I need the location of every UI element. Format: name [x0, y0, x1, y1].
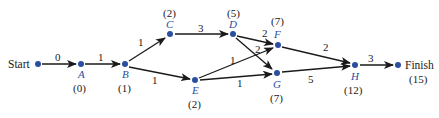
weight-e-f: 1 — [230, 54, 236, 66]
weight-b-e: 1 — [152, 74, 158, 86]
node-c — [167, 31, 173, 37]
label-finish: Finish — [405, 59, 434, 71]
time-a: (0) — [73, 82, 86, 95]
node-f — [275, 42, 281, 48]
time-b: (1) — [118, 82, 131, 95]
label-g: G — [273, 78, 281, 90]
weight-c-d: 3 — [198, 22, 204, 34]
node-start — [35, 61, 41, 67]
node-a — [78, 61, 84, 67]
label-e: E — [191, 84, 199, 96]
weight-e-g: 1 — [237, 77, 243, 89]
node-g — [274, 70, 280, 76]
label-h: H — [350, 70, 360, 82]
label-d: D — [228, 18, 237, 30]
label-start: Start — [8, 58, 31, 70]
time-e: (2) — [188, 98, 201, 111]
network-diagram: 0 1 1 1 3 2 2 1 1 2 5 3 Start A (0) B (1… — [0, 0, 439, 118]
edge-e-f — [199, 48, 273, 78]
weight-f-h: 2 — [323, 41, 329, 53]
edge-e-g — [200, 74, 272, 80]
weight-d-g: 2 — [255, 43, 261, 55]
weight-g-h: 5 — [308, 73, 314, 85]
node-e — [192, 77, 198, 83]
time-finish: (15) — [409, 73, 428, 86]
time-h: (12) — [344, 84, 363, 97]
weight-b-c: 1 — [138, 36, 144, 48]
time-g: (7) — [270, 92, 283, 105]
node-h — [352, 62, 358, 68]
node-d — [230, 31, 236, 37]
edge-b-c — [129, 38, 165, 61]
weight-h-finish: 3 — [368, 52, 374, 64]
weight-start-a: 0 — [55, 51, 61, 63]
edge-g-h — [282, 66, 350, 72]
label-f: F — [273, 28, 281, 40]
node-b — [122, 61, 128, 67]
label-c: C — [166, 18, 174, 30]
weight-a-b: 1 — [98, 51, 104, 63]
edge-f-h — [282, 47, 350, 63]
time-f: (7) — [271, 15, 284, 28]
label-b: B — [122, 68, 129, 80]
weight-d-f: 2 — [262, 27, 268, 39]
edge-b-e — [129, 67, 190, 79]
node-finish — [395, 62, 401, 68]
label-a: A — [77, 68, 85, 80]
